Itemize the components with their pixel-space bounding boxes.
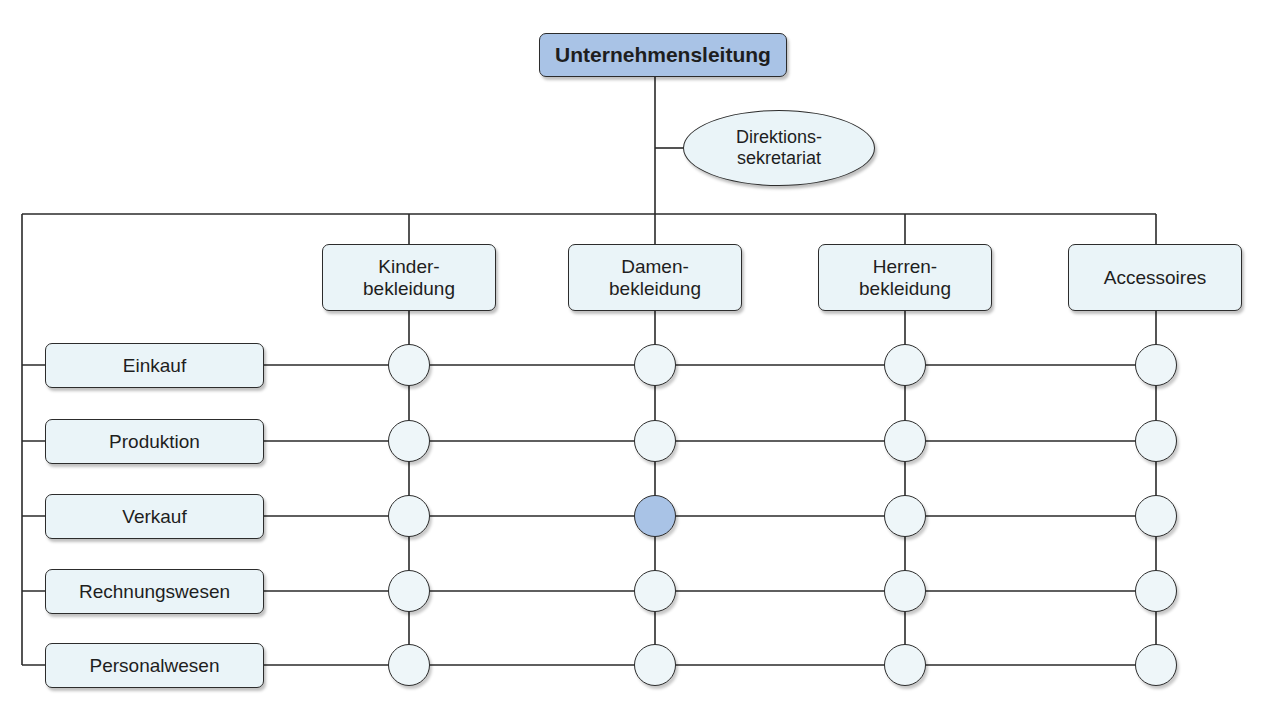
node-unternehmensleitung: Unternehmensleitung <box>539 33 787 77</box>
matrix-node-einkauf-accessoires <box>1135 344 1177 386</box>
column-label: Accessoires <box>1104 267 1206 289</box>
column-kinderbekleidung: Kinder- bekleidung <box>322 244 496 311</box>
row-label: Rechnungswesen <box>79 581 230 603</box>
column-label: Damen- bekleidung <box>609 256 701 300</box>
matrix-node-verkauf-damen-highlighted <box>634 495 676 537</box>
matrix-node-rechnungswesen-kinder <box>388 570 430 612</box>
column-label: Herren- bekleidung <box>859 256 951 300</box>
row-produktion: Produktion <box>45 419 264 464</box>
matrix-node-verkauf-herren <box>884 495 926 537</box>
row-label: Verkauf <box>122 506 186 528</box>
node-label: Direktions- sekretariat <box>736 127 822 169</box>
row-einkauf: Einkauf <box>45 343 264 388</box>
matrix-node-rechnungswesen-herren <box>884 570 926 612</box>
matrix-node-personalwesen-damen <box>634 644 676 686</box>
column-herrenbekleidung: Herren- bekleidung <box>818 244 992 311</box>
matrix-node-produktion-accessoires <box>1135 420 1177 462</box>
node-direktionssekretariat: Direktions- sekretariat <box>683 110 875 186</box>
row-label: Produktion <box>109 431 200 453</box>
row-label: Personalwesen <box>90 655 220 677</box>
matrix-node-rechnungswesen-damen <box>634 570 676 612</box>
matrix-node-personalwesen-accessoires <box>1135 644 1177 686</box>
node-label: Unternehmensleitung <box>555 44 771 66</box>
matrix-node-einkauf-damen <box>634 344 676 386</box>
matrix-node-rechnungswesen-accessoires <box>1135 570 1177 612</box>
matrix-node-produktion-herren <box>884 420 926 462</box>
column-damenbekleidung: Damen- bekleidung <box>568 244 742 311</box>
column-accessoires: Accessoires <box>1068 244 1242 311</box>
row-rechnungswesen: Rechnungswesen <box>45 569 264 614</box>
row-verkauf: Verkauf <box>45 494 264 539</box>
matrix-node-produktion-damen <box>634 420 676 462</box>
column-label: Kinder- bekleidung <box>363 256 455 300</box>
row-personalwesen: Personalwesen <box>45 643 264 688</box>
matrix-node-verkauf-kinder <box>388 495 430 537</box>
matrix-node-produktion-kinder <box>388 420 430 462</box>
matrix-node-einkauf-herren <box>884 344 926 386</box>
matrix-node-personalwesen-herren <box>884 644 926 686</box>
row-label: Einkauf <box>123 355 186 377</box>
matrix-node-verkauf-accessoires <box>1135 495 1177 537</box>
matrix-node-personalwesen-kinder <box>388 644 430 686</box>
matrix-node-einkauf-kinder <box>388 344 430 386</box>
